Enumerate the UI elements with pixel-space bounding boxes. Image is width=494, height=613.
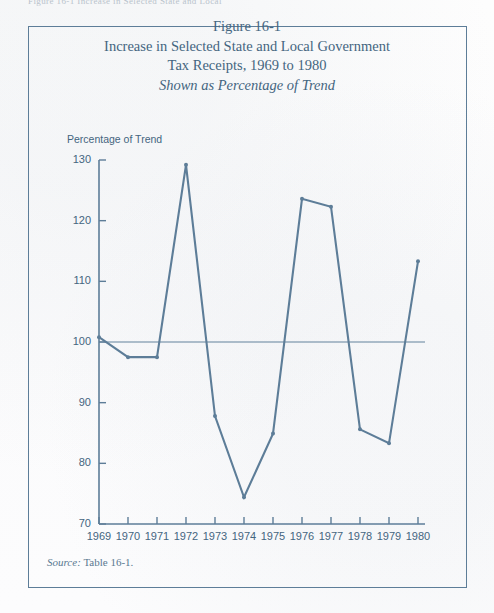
figure-title-line-2: Tax Receipts, 1969 to 1980 [0,56,494,76]
source-value: Table 16-1. [83,556,133,568]
y-axis-title: Percentage of Trend [67,133,162,145]
figure-title-block: Figure 16-1 Increase in Selected State a… [0,17,494,95]
y-tick-label: 70 [61,517,91,529]
y-tick-label: 110 [61,274,91,286]
source-note: Source: Table 16-1. [47,556,133,568]
y-tick-label: 90 [61,396,91,408]
figure-frame [28,26,467,588]
y-tick-label: 120 [61,214,91,226]
source-label: Source: [47,556,81,568]
y-tick-label: 100 [61,335,91,347]
y-tick-label: 80 [61,456,91,468]
y-tick-label: 130 [61,153,91,165]
figure-title-line-1: Increase in Selected State and Local Gov… [0,37,494,57]
x-tick-label: 1980 [401,530,435,542]
figure-subtitle: Shown as Percentage of Trend [0,76,494,96]
figure-number: Figure 16-1 [0,17,494,37]
cropped-page-header: Figure 16-1 Increase in Selected State a… [28,0,288,6]
